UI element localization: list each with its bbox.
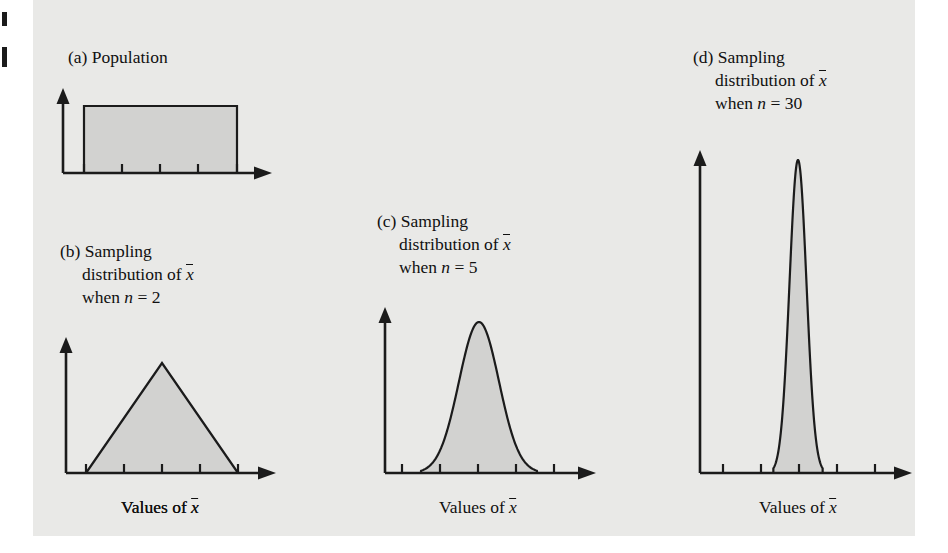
x-axis-arrowhead-d <box>894 467 912 480</box>
figure-root: (a) PopulationValues of x(b) Samplingdis… <box>0 0 948 553</box>
panel-plot-d <box>0 0 948 553</box>
x-axis-label-d: Values of x <box>759 497 837 518</box>
distribution-curve-d <box>773 160 822 473</box>
y-axis-arrowhead-d <box>694 150 707 166</box>
